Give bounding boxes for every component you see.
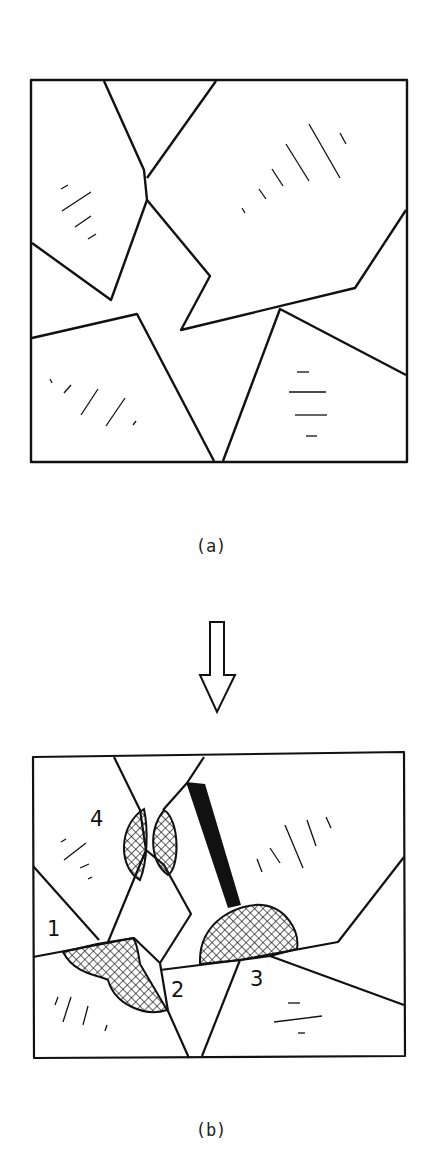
label-2: 2 [171, 978, 184, 1002]
nucleus-4-left [124, 809, 147, 880]
figure-canvas [0, 0, 422, 1155]
panel-a-caption: (a) [0, 536, 422, 556]
panel-a-hatch-marks [50, 124, 346, 436]
nucleus-3 [200, 905, 297, 964]
panel-b-diagram [33, 752, 405, 1058]
panel-b-caption: (b) [0, 1120, 422, 1140]
boundary-film [186, 782, 241, 908]
label-1: 1 [47, 917, 60, 941]
label-4: 4 [90, 807, 103, 831]
down-arrow-icon [200, 622, 235, 712]
label-3: 3 [250, 967, 263, 991]
